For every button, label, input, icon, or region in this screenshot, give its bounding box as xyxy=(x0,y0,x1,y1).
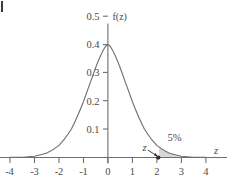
normal-distribution-figure: 0.5 0.4 0.3 0.2 0.1 f(z) -4 -3 -2 -1 0 1… xyxy=(0,0,235,193)
x-tick-label-minus-4: -4 xyxy=(5,166,14,177)
x-axis-ticks xyxy=(10,158,206,164)
critical-value-dot xyxy=(156,156,160,160)
y-axis-label: f(z) xyxy=(113,11,127,23)
x-tick-label-minus-3: -3 xyxy=(30,166,39,177)
x-tick-label-1: 1 xyxy=(130,166,135,177)
y-axis-ticks xyxy=(103,16,108,129)
x-tick-label-3: 3 xyxy=(179,166,184,177)
x-axis-label: z xyxy=(213,145,218,156)
critical-value-label: z xyxy=(141,142,146,153)
y-tick-label-0-2: 0.2 xyxy=(86,96,99,107)
y-tick-label-0-1: 0.1 xyxy=(86,124,99,135)
chart-canvas: 0.5 0.4 0.3 0.2 0.1 f(z) -4 -3 -2 -1 0 1… xyxy=(0,0,235,193)
y-tick-label-0-4: 0.4 xyxy=(86,39,100,50)
shaded-area-percent-label: 5% xyxy=(168,132,182,143)
y-tick-label-0-5: 0.5 xyxy=(86,11,99,22)
x-tick-label-minus-1: -1 xyxy=(79,166,88,177)
x-tick-label-minus-2: -2 xyxy=(55,166,64,177)
x-tick-label-2: 2 xyxy=(154,166,159,177)
x-tick-label-0: 0 xyxy=(105,166,110,177)
y-tick-label-0-3: 0.3 xyxy=(86,67,99,78)
x-tick-label-4: 4 xyxy=(203,166,209,177)
